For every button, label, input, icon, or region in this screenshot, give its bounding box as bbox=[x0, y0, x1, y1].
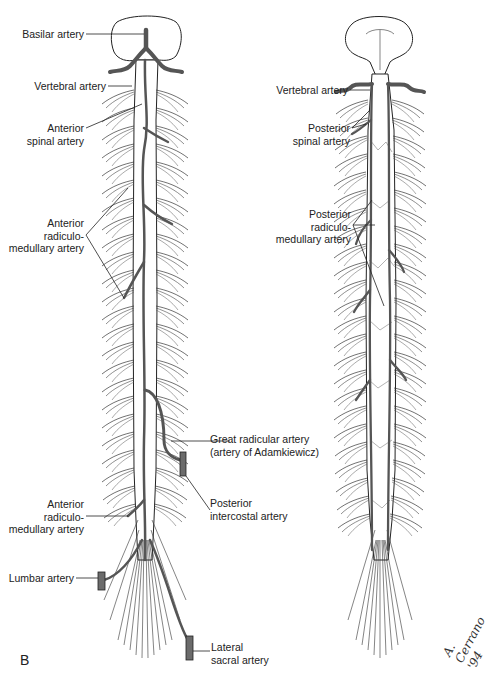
label-line: Posterior bbox=[210, 497, 288, 510]
label-lateral-sacral-artery: Lateral sacral artery bbox=[211, 641, 269, 666]
label-vertebral-artery-right: Vertebral artery bbox=[276, 84, 348, 97]
label-line: Anterior bbox=[9, 217, 84, 230]
panel-letter: B bbox=[20, 652, 29, 668]
left-anterior-view bbox=[76, 16, 230, 660]
label-posterior-radiculomedullary-artery: Posterior radiculo- medullary artery bbox=[276, 208, 351, 246]
label-line: Posterior bbox=[276, 208, 351, 221]
label-line: spinal artery bbox=[27, 135, 84, 148]
label-anterior-radiculomedullary-artery-upper: Anterior radiculo- medullary artery bbox=[9, 217, 84, 255]
label-vertebral-artery-left: Vertebral artery bbox=[34, 80, 106, 93]
label-line: Anterior bbox=[9, 498, 84, 511]
label-anterior-spinal-artery: Anterior spinal artery bbox=[27, 122, 84, 147]
label-line: Anterior bbox=[27, 122, 84, 135]
label-line: medullary artery bbox=[9, 242, 84, 255]
lumbar-artery-stub bbox=[98, 572, 105, 590]
label-line: Great radicular artery bbox=[210, 433, 319, 446]
label-posterior-intercostal-artery: Posterior intercostal artery bbox=[210, 497, 288, 522]
brainstem-dorsal bbox=[345, 17, 412, 77]
label-line: radiculo- bbox=[9, 230, 84, 243]
label-line: spinal artery bbox=[293, 135, 350, 148]
label-line: Lateral bbox=[211, 641, 269, 654]
label-great-radicular-artery: Great radicular artery (artery of Adamki… bbox=[210, 433, 319, 458]
posterior-intercostal-stub bbox=[180, 452, 186, 476]
label-posterior-spinal-artery: Posterior spinal artery bbox=[293, 122, 350, 147]
label-line: radiculo- bbox=[276, 221, 351, 234]
label-line: (artery of Adamkiewicz) bbox=[210, 446, 319, 459]
lateral-sacral-stub bbox=[186, 636, 193, 660]
label-line: sacral artery bbox=[211, 654, 269, 667]
label-anterior-radiculomedullary-artery-lower: Anterior radiculo- medullary artery bbox=[9, 498, 84, 536]
label-line: medullary artery bbox=[9, 523, 84, 536]
label-line: radiculo- bbox=[9, 511, 84, 524]
label-line: intercostal artery bbox=[210, 510, 288, 523]
right-posterior-view bbox=[334, 17, 426, 659]
label-line: medullary artery bbox=[276, 233, 351, 246]
label-lumbar-artery: Lumbar artery bbox=[9, 572, 74, 585]
label-basilar-artery: Basilar artery bbox=[22, 28, 84, 41]
right-cauda-equina bbox=[348, 530, 412, 658]
label-line: Posterior bbox=[293, 122, 350, 135]
